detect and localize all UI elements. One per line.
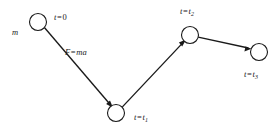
label-time-two: t=t2 bbox=[180, 7, 194, 16]
label-time-three: t=t3 bbox=[244, 70, 258, 79]
label-mass-symbol: m bbox=[12, 27, 18, 37]
label-zero-value: 0 bbox=[62, 12, 66, 22]
node-circle-t0 bbox=[30, 14, 47, 31]
label-time-one: t=t1 bbox=[134, 113, 148, 122]
label-force-equation: F=ma bbox=[65, 48, 87, 57]
label-time-zero: t=0 bbox=[54, 13, 67, 22]
label-subscript-three: 3 bbox=[255, 74, 258, 80]
segment-t0-to-t1 bbox=[45, 28, 111, 105]
node-circle-t2 bbox=[182, 27, 199, 44]
node-circle-t1 bbox=[108, 105, 125, 122]
node-circle-t3 bbox=[251, 44, 268, 61]
label-mass: m bbox=[12, 28, 18, 37]
segment-t1-to-t2 bbox=[122, 42, 183, 107]
segment-t2-to-t3 bbox=[198, 37, 248, 48]
label-subscript-two: 2 bbox=[191, 11, 194, 17]
label-subscript-one: 1 bbox=[145, 117, 148, 123]
particle-trajectory-figure: t=0 m F=ma t=t1 t=t2 t=t3 bbox=[0, 0, 275, 140]
label-force-expression: ma bbox=[76, 47, 87, 57]
